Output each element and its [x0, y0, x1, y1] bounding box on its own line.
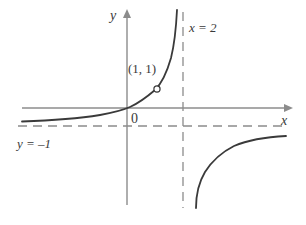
- curve-right-branch: [196, 136, 286, 208]
- origin-label: 0: [131, 112, 138, 126]
- graph-canvas: [0, 0, 306, 225]
- y-axis-arrowhead: [123, 9, 131, 18]
- y-axis-label: y: [110, 9, 116, 23]
- horizontal-asymptote-label: y = –1: [17, 137, 51, 150]
- open-circle-marker: [154, 86, 160, 92]
- x-axis-label: x: [281, 114, 287, 128]
- function-graph-figure: y x x = 2 y = –1 (1, 1) 0: [0, 0, 306, 225]
- x-axis: [22, 104, 293, 112]
- x-axis-arrowhead: [284, 104, 293, 112]
- vertical-asymptote-label: x = 2: [189, 21, 217, 34]
- point-coordinate-label: (1, 1): [128, 62, 156, 75]
